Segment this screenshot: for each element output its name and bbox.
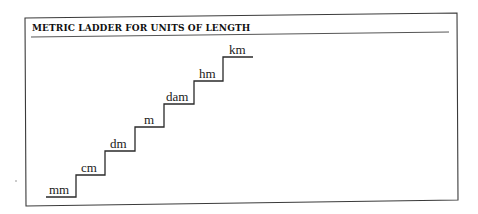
step-label-dm: dm <box>110 136 127 151</box>
step-label-hm: hm <box>199 66 216 81</box>
step-label-km: km <box>229 42 246 57</box>
scan-speck <box>15 180 17 182</box>
step-label-m: m <box>144 112 154 127</box>
metric-ladder-figure: METRIC LADDER FOR UNITS OF LENGTH mm cm … <box>0 0 478 214</box>
step-label-mm: mm <box>49 182 69 197</box>
step-label-dam: dam <box>166 89 188 104</box>
step-label-cm: cm <box>81 160 97 175</box>
ladder-staircase <box>46 57 253 197</box>
figure-title: METRIC LADDER FOR UNITS OF LENGTH <box>32 23 251 33</box>
